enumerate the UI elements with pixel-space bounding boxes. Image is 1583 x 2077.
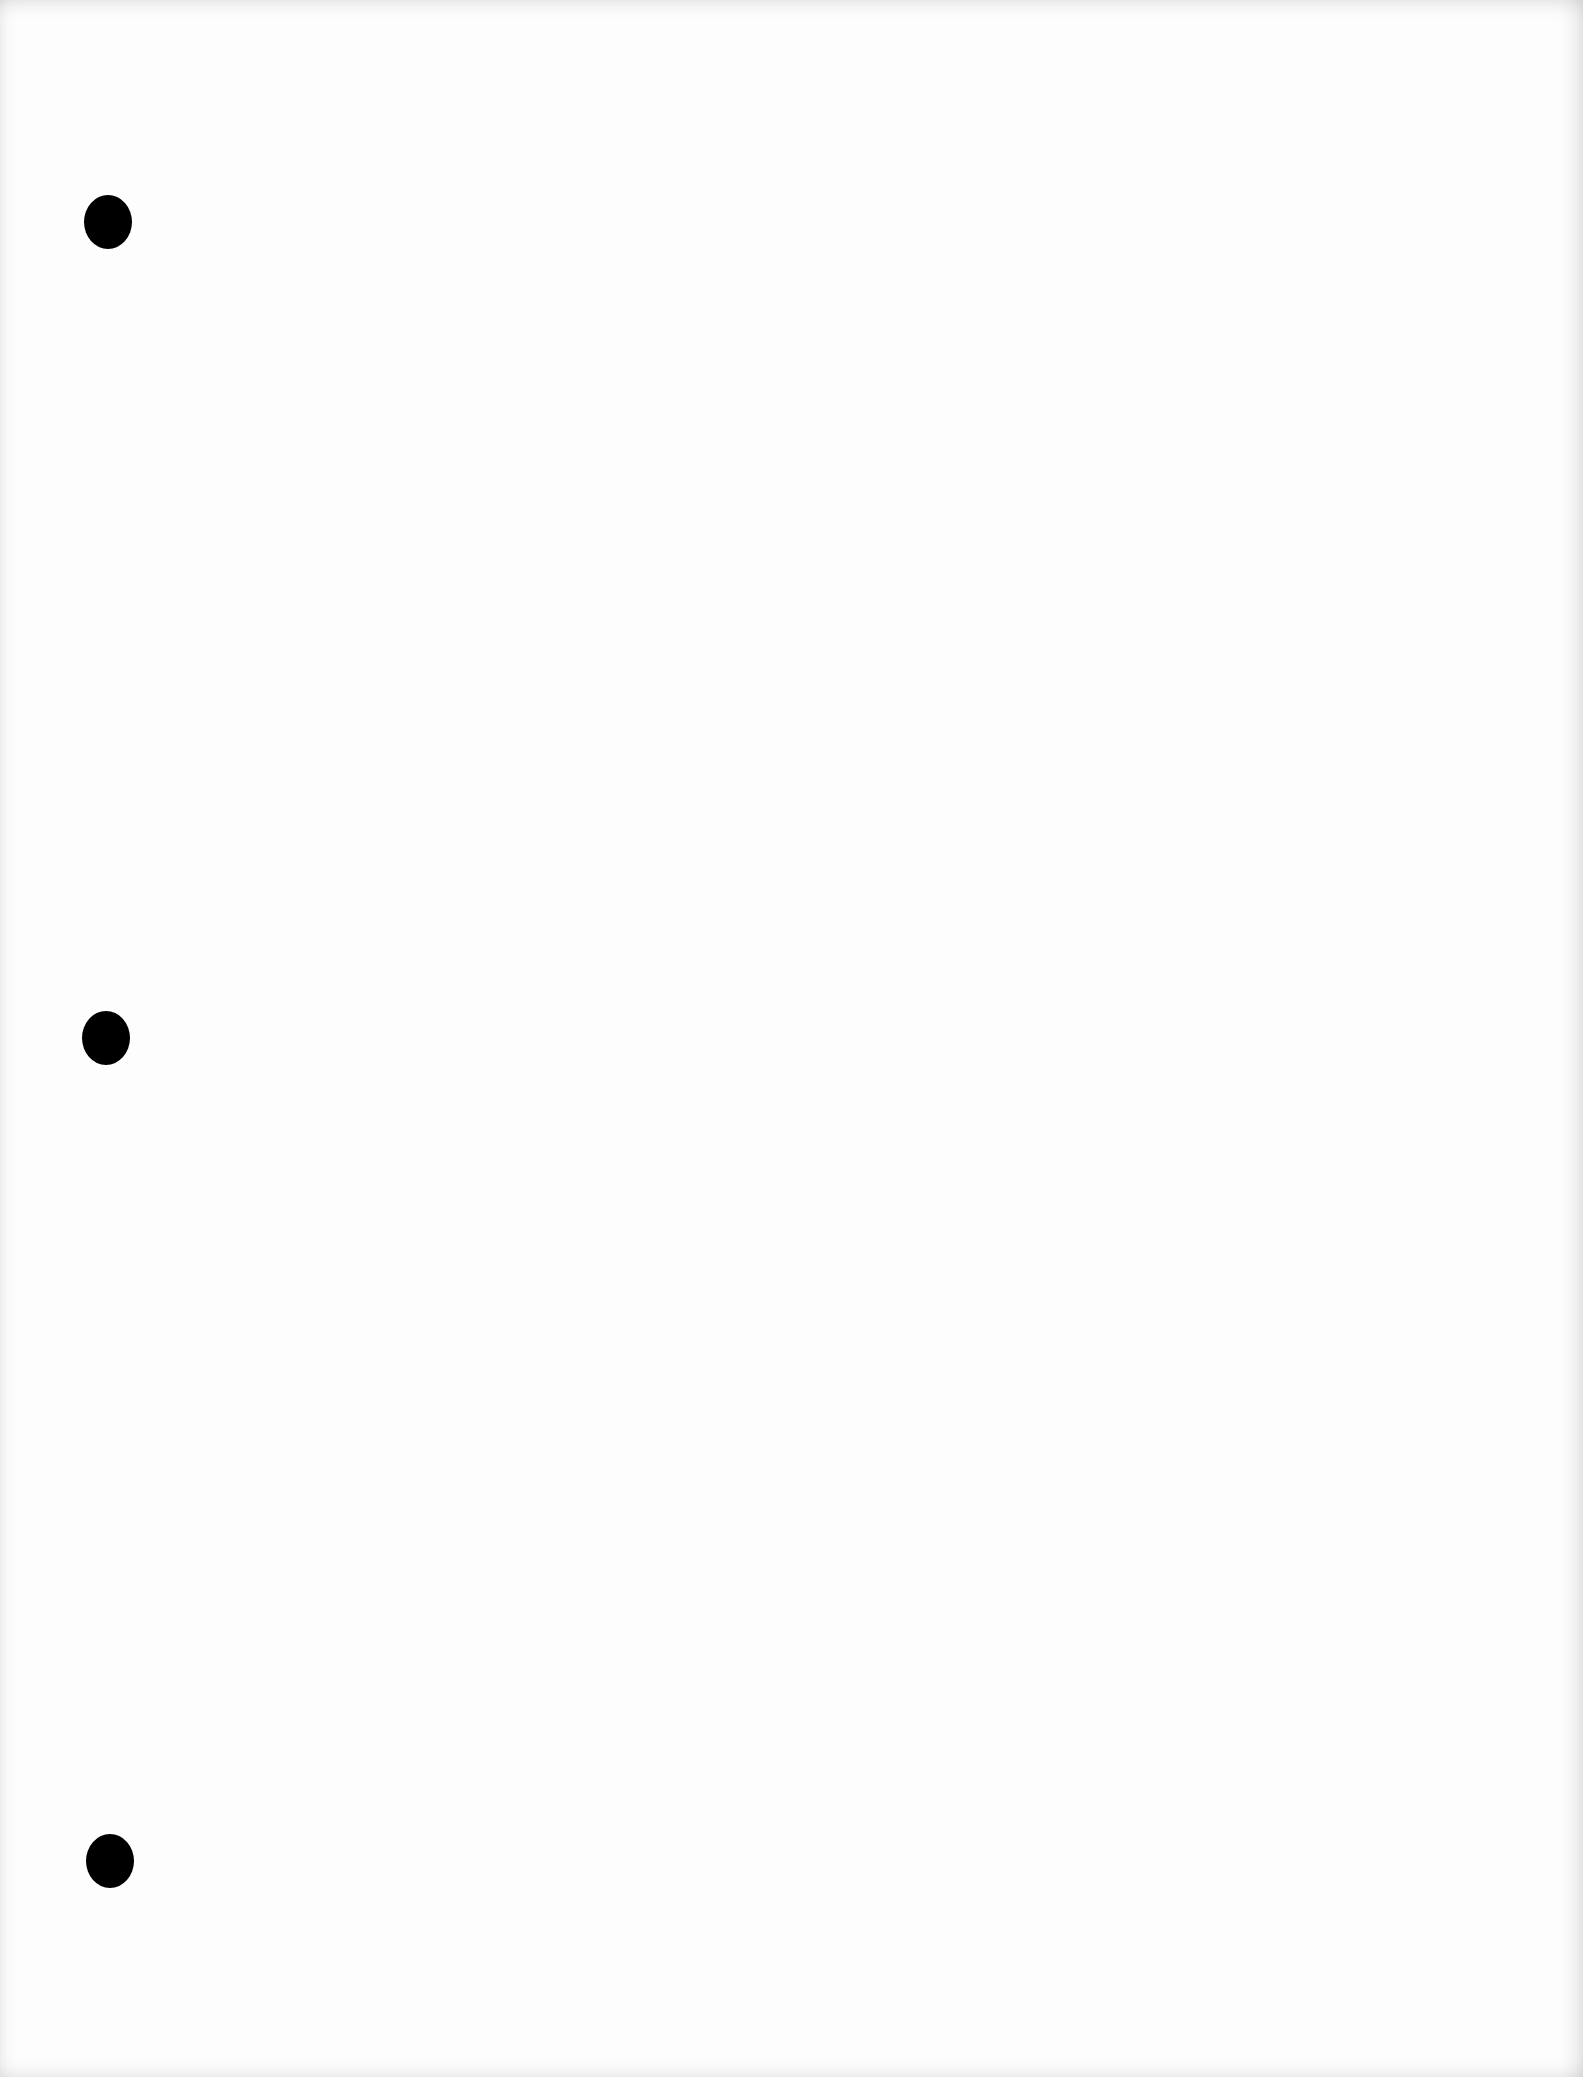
punch-hole-middle [82, 1011, 130, 1065]
punch-hole-bottom [86, 1834, 134, 1888]
page-content-area [180, 80, 1523, 1997]
punch-hole-top [84, 195, 132, 249]
blank-page [0, 0, 1583, 2077]
